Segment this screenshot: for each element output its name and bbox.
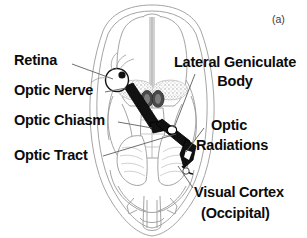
retina-marker	[118, 71, 125, 78]
label-optic-radiations-line2: Radiations	[196, 137, 268, 154]
label-visual-cortex-line2: (Occipital)	[201, 205, 270, 222]
visual-pathway-figure: Retina Optic Nerve Optic Chiasm Optic Tr…	[0, 0, 307, 238]
label-optic-tract: Optic Tract	[14, 147, 88, 164]
label-optic-chiasm: Optic Chiasm	[14, 112, 105, 129]
panel-tag: (a)	[272, 13, 285, 25]
label-retina: Retina	[14, 52, 57, 69]
label-optic-radiations-line1: Optic	[211, 117, 247, 134]
label-lateral-geniculate-body-line1: Lateral Geniculate	[167, 54, 303, 71]
label-lateral-geniculate-body-line2: Body	[167, 73, 303, 90]
lateral-geniculate-body-shape	[167, 126, 176, 134]
label-visual-cortex-line1: Visual Cortex	[194, 184, 284, 201]
label-optic-nerve: Optic Nerve	[14, 82, 93, 99]
